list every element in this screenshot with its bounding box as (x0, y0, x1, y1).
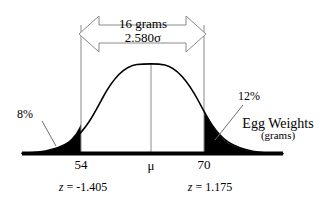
span-annotation-line2: 2.580σ (99, 31, 187, 45)
chart-title: Egg Weights (grams) (232, 117, 324, 141)
leader-line-8-percent (42, 121, 56, 146)
chart-title-units: (grams) (232, 130, 324, 142)
left-tail-percent-label: 8% (17, 108, 33, 121)
z-score-label-right: z = 1.175 (175, 181, 245, 194)
z-value-right: = 1.175 (195, 180, 232, 194)
z-score-label-left: z = -1.405 (48, 181, 118, 194)
span-annotation-label: 16 grams 2.580σ (99, 17, 187, 44)
baseline-axis (22, 152, 283, 156)
z-value-left: = -1.405 (66, 180, 107, 194)
z-variable-left: z (59, 180, 64, 194)
z-variable-right: z (188, 180, 193, 194)
axis-tick-label-mean: μ (136, 159, 166, 173)
right-tail-percent-label: 12% (238, 90, 260, 103)
normal-distribution-figure: 16 grams 2.580σ 8% 12% Egg Weights (gram… (0, 0, 327, 209)
axis-tick-label-70: 70 (187, 158, 221, 172)
span-annotation-line1: 16 grams (119, 16, 167, 31)
axis-tick-label-54: 54 (64, 158, 98, 172)
